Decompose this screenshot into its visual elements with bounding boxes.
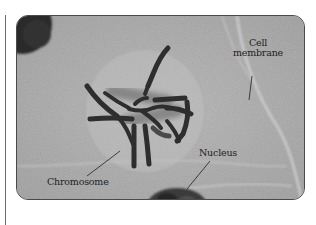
label-cell-membrane: Cell membrane [228,38,288,58]
label-cell-membrane-line2: membrane [228,48,288,58]
page-margin-rule [5,15,6,225]
label-chromosome: Chromosome [47,177,109,187]
label-nucleus: Nucleus [199,148,237,158]
